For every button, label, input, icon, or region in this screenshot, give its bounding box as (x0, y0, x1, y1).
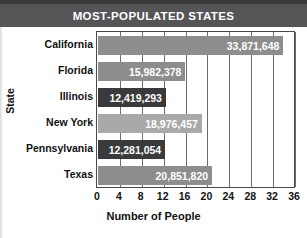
gridline (207, 32, 208, 187)
bar-value-label: 33,871,648 (227, 40, 284, 52)
x-tick-label: 8 (138, 190, 144, 202)
category-label-florida: Florida (14, 64, 93, 76)
bar-value-label: 18,976,457 (145, 118, 202, 130)
x-axis-label: Number of People (0, 210, 307, 222)
category-label-illinois: Illinois (14, 90, 93, 102)
x-axis-tick-labels: 04812162024283236 (96, 190, 295, 204)
x-tick-label: 20 (201, 190, 213, 202)
x-tick-label: 12 (157, 190, 169, 202)
chart-title: MOST-POPULATED STATES (73, 10, 235, 22)
bar-value-label: 15,982,378 (129, 66, 186, 78)
category-label-california: California (14, 38, 93, 50)
x-tick-label: 24 (222, 190, 234, 202)
bar-new-york: 18,976,457 (98, 114, 202, 133)
category-label-texas: Texas (14, 168, 93, 180)
bar-illinois: 12,419,293 (98, 88, 166, 107)
bar-value-label: 20,851,820 (156, 170, 213, 182)
bar-value-label: 12,419,293 (109, 92, 166, 104)
gridline (273, 32, 274, 187)
category-label-column: CaliforniaFloridaIllinoisNew YorkPennsyl… (14, 31, 93, 188)
x-tick-label: 0 (94, 190, 100, 202)
bar-pennsylvania: 12,281,054 (98, 140, 165, 159)
gridline (295, 32, 296, 187)
plot-area: 33,871,64815,982,37812,419,29318,976,457… (96, 31, 295, 188)
gridline (186, 32, 187, 187)
x-tick-label: 32 (266, 190, 278, 202)
bar-california: 33,871,648 (98, 36, 283, 55)
category-label-pennsylvania: Pennsylvania (14, 142, 93, 154)
x-tick-label: 16 (179, 190, 191, 202)
category-label-new-york: New York (14, 116, 93, 128)
left-edge-shadow (0, 27, 3, 238)
gridline (164, 32, 165, 187)
chart-container: MOST-POPULATED STATES State CaliforniaFl… (0, 0, 307, 238)
x-tick-label: 28 (244, 190, 256, 202)
gridline (251, 32, 252, 187)
chart-title-band: MOST-POPULATED STATES (0, 4, 307, 27)
gridline (229, 32, 230, 187)
bar-value-label: 12,281,054 (109, 144, 166, 156)
bar-florida: 15,982,378 (98, 62, 185, 81)
bar-texas: 20,851,820 (98, 166, 212, 185)
x-tick-label: 36 (288, 190, 300, 202)
gridline (142, 32, 143, 187)
gridline (120, 32, 121, 187)
x-tick-label: 4 (116, 190, 122, 202)
